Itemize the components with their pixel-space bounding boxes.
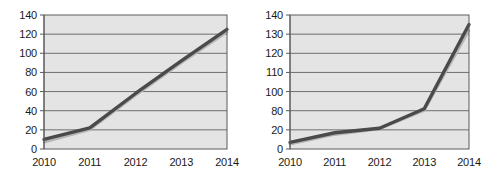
y-tick-label: 110 [266, 66, 283, 78]
x-tick-label: 2010 [278, 156, 302, 168]
y-tick-label: 0 [277, 143, 283, 155]
x-tick-label: 2013 [412, 156, 436, 168]
y-tick-label: 0 [31, 143, 37, 155]
x-tick-label: 2013 [169, 156, 193, 168]
x-tick-label: 2012 [124, 156, 148, 168]
y-tick-label: 80 [25, 66, 37, 78]
y-tick-label: 140 [19, 9, 37, 21]
two-panel-line-chart-figure: 020406080100120140 20102011201220132014 … [0, 0, 484, 192]
x-tick-label: 2012 [368, 156, 392, 168]
y-tick-label: 60 [25, 86, 37, 98]
x-tick-label: 2011 [323, 156, 346, 168]
chart-panel-right: 02080100110120130140 2010201120122013201… [242, 0, 484, 192]
right-chart-svg: 02080100110120130140 2010201120122013201… [242, 0, 484, 192]
x-tick-label: 2010 [32, 156, 56, 168]
left-plot-area-background [44, 15, 227, 149]
y-tick-label: 100 [19, 47, 37, 59]
y-tick-label: 20 [271, 124, 283, 136]
x-tick-label: 2014 [215, 156, 239, 168]
y-tick-label: 100 [265, 86, 283, 98]
chart-panel-left: 020406080100120140 20102011201220132014 [0, 0, 242, 192]
left-chart-svg: 020406080100120140 20102011201220132014 [0, 0, 242, 192]
x-tick-label: 2014 [457, 156, 481, 168]
y-tick-label: 20 [25, 124, 37, 136]
y-tick-label: 140 [265, 9, 283, 21]
x-tick-label: 2011 [78, 156, 101, 168]
y-tick-label: 120 [19, 28, 37, 40]
y-tick-label: 120 [265, 47, 283, 59]
y-tick-label: 130 [265, 28, 283, 40]
y-tick-label: 40 [25, 105, 37, 117]
y-tick-label: 80 [271, 105, 283, 117]
